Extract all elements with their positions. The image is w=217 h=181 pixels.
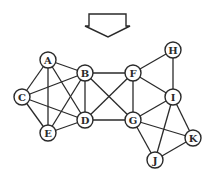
node-F: F — [125, 65, 141, 81]
node-label: F — [129, 68, 136, 79]
node-label: G — [129, 115, 138, 126]
edge-C-D — [22, 97, 85, 120]
node-label: B — [81, 68, 89, 79]
node-label: D — [81, 115, 90, 126]
graph-diagram: ABCDEFGHIJK — [0, 0, 217, 181]
edge-B-C — [22, 73, 85, 97]
node-G: G — [125, 112, 141, 128]
node-B: B — [77, 65, 93, 81]
node-I: I — [165, 89, 181, 105]
node-label: J — [152, 155, 158, 166]
node-label: I — [171, 92, 176, 103]
node-C: C — [14, 89, 30, 105]
node-K: K — [185, 130, 201, 146]
node-label: A — [43, 55, 52, 66]
node-label: K — [189, 133, 198, 144]
node-D: D — [77, 112, 93, 128]
node-J: J — [147, 152, 163, 168]
node-E: E — [40, 125, 56, 141]
node-H: H — [165, 42, 181, 58]
node-A: A — [40, 52, 56, 68]
node-label: C — [18, 92, 26, 103]
node-label: H — [168, 45, 177, 56]
down-arrow-icon — [85, 14, 130, 37]
node-label: E — [44, 128, 52, 139]
